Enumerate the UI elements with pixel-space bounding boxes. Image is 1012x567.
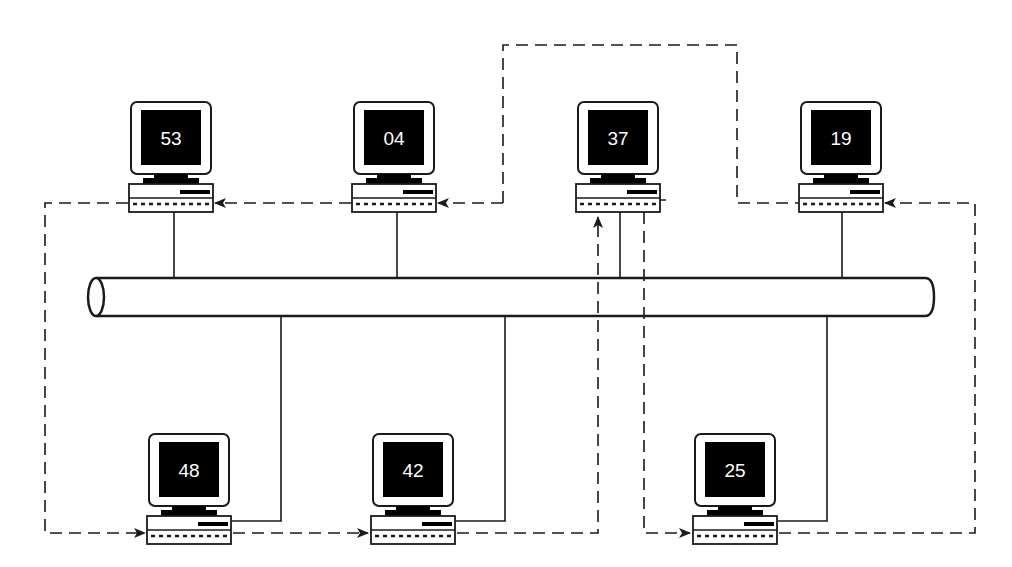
drive-slot	[422, 522, 452, 526]
network-diagram: 53043719484225	[0, 0, 1012, 567]
computer-id-label: 19	[830, 128, 851, 149]
drop-cable-48	[232, 316, 281, 521]
token-path-25-to-19	[779, 203, 975, 533]
token-path-42-to-37	[457, 217, 598, 533]
drive-slot	[627, 190, 657, 194]
computer-25: 25	[693, 434, 777, 544]
monitor-stand-base	[161, 510, 217, 516]
computer-id-label: 25	[724, 460, 745, 481]
computer-id-label: 37	[607, 128, 628, 149]
monitor-stand-base	[385, 510, 441, 516]
computer-48: 48	[147, 434, 231, 544]
drop-cable-42	[456, 316, 505, 521]
computer-id-label: 42	[402, 460, 423, 481]
computer-id-label: 04	[383, 128, 405, 149]
computers: 53043719484225	[129, 102, 883, 544]
drive-slot	[403, 190, 433, 194]
drive-slot	[850, 190, 880, 194]
computer-42: 42	[371, 434, 455, 544]
bus-cable-end	[88, 278, 104, 316]
token-path-37-to-25	[644, 212, 690, 533]
drop-cable-25	[778, 316, 827, 521]
computer-id-label: 53	[160, 128, 181, 149]
drive-slot	[198, 522, 228, 526]
token-path-53-to-48	[45, 203, 145, 533]
computer-19: 19	[799, 102, 883, 212]
drive-slot	[744, 522, 774, 526]
monitor-stand-base	[707, 510, 763, 516]
computer-id-label: 48	[178, 460, 199, 481]
computer-37: 37	[576, 102, 660, 212]
computer-04: 04	[352, 102, 436, 212]
drive-slot	[180, 190, 210, 194]
computer-53: 53	[129, 102, 213, 212]
bus-cable	[88, 278, 934, 316]
